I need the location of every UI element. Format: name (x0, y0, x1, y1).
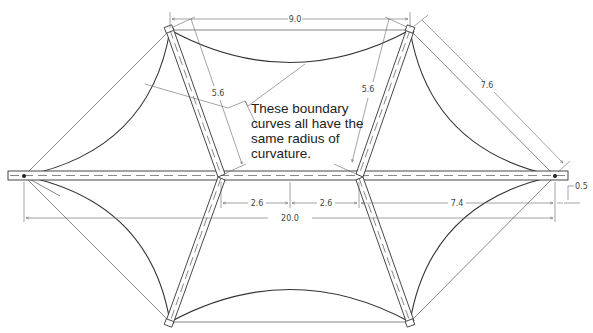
svg-text:These boundary: These boundary (251, 101, 349, 116)
dimension-top-span: 9.0 (170, 12, 410, 28)
annotation-note: These boundary curves all have the same … (251, 101, 364, 161)
left-node (22, 174, 26, 178)
svg-text:same radius of: same radius of (251, 131, 340, 146)
svg-text:5.6: 5.6 (362, 85, 375, 94)
mast-bottom-left (164, 177, 225, 327)
technical-drawing: 9.0 5.6 5.6 7.6 These boundary curves al… (0, 0, 593, 333)
svg-text:20.0: 20.0 (281, 214, 299, 223)
mast-top-right (356, 25, 415, 177)
svg-text:5.6: 5.6 (212, 89, 225, 98)
svg-text:2.6: 2.6 (251, 199, 264, 208)
svg-text:0.5: 0.5 (575, 182, 588, 191)
svg-text:7.6: 7.6 (481, 81, 494, 90)
svg-text:2.6: 2.6 (320, 199, 333, 208)
dimension-end-offset: 0.5 (557, 182, 588, 203)
horizontal-beam (8, 171, 568, 180)
svg-text:curvature.: curvature. (251, 146, 311, 161)
svg-text:curves all have the: curves all have the (251, 116, 364, 131)
svg-text:7.4: 7.4 (451, 199, 464, 208)
mast-top-left (164, 25, 225, 177)
mast-bottom-right (356, 177, 415, 327)
right-node (553, 174, 557, 178)
dimension-offsets: 2.6 2.6 7.4 20.0 (24, 182, 555, 223)
svg-text:9.0: 9.0 (289, 15, 302, 24)
dimension-diagonal: 7.6 (413, 15, 570, 172)
